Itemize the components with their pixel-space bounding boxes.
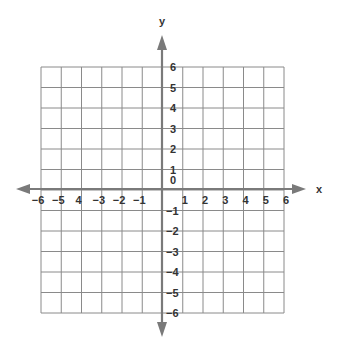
y-axis-up-arrow-icon (157, 35, 167, 50)
x-axis-left-arrow-icon (16, 184, 30, 194)
axes (16, 35, 306, 337)
y-tick-label: 4 (170, 102, 177, 114)
origin-label: 0 (170, 174, 176, 186)
x-tick-label: −3 (92, 194, 105, 206)
x-tick-label: 4 (75, 194, 82, 206)
y-tick-label: −3 (166, 246, 179, 258)
y-tick-label: 1 (170, 164, 176, 176)
y-tick-label: 3 (170, 123, 176, 135)
y-tick-label: −4 (166, 266, 179, 278)
y-tick-label: 6 (170, 61, 176, 73)
x-axis-label: x (316, 183, 323, 195)
x-tick-label: 5 (263, 194, 269, 206)
x-tick-label: 4 (242, 194, 249, 206)
x-tick-label: −5 (52, 194, 65, 206)
x-tick-label: 3 (222, 194, 228, 206)
y-tick-label: −2 (166, 225, 179, 237)
y-axis-label: y (159, 15, 166, 27)
y-axis-down-arrow-icon (157, 322, 167, 337)
y-tick-label: −1 (166, 205, 179, 217)
x-tick-labels: −6−54−3−2−1123456 (32, 194, 289, 206)
x-tick-label: −6 (32, 194, 45, 206)
x-axis-right-arrow-icon (292, 184, 306, 194)
y-tick-label: −5 (166, 287, 179, 299)
x-tick-label: −1 (133, 194, 146, 206)
y-tick-label: 2 (170, 143, 176, 155)
y-tick-label: −6 (166, 307, 179, 319)
x-tick-label: −2 (113, 194, 126, 206)
x-tick-label: 2 (202, 194, 208, 206)
x-tick-label: 1 (182, 194, 188, 206)
coordinate-plane: x y 0 −6−54−3−2−1123456 123456−1−2−3−4−5… (0, 0, 341, 352)
y-tick-label: 5 (170, 82, 176, 94)
x-tick-label: 6 (283, 194, 289, 206)
